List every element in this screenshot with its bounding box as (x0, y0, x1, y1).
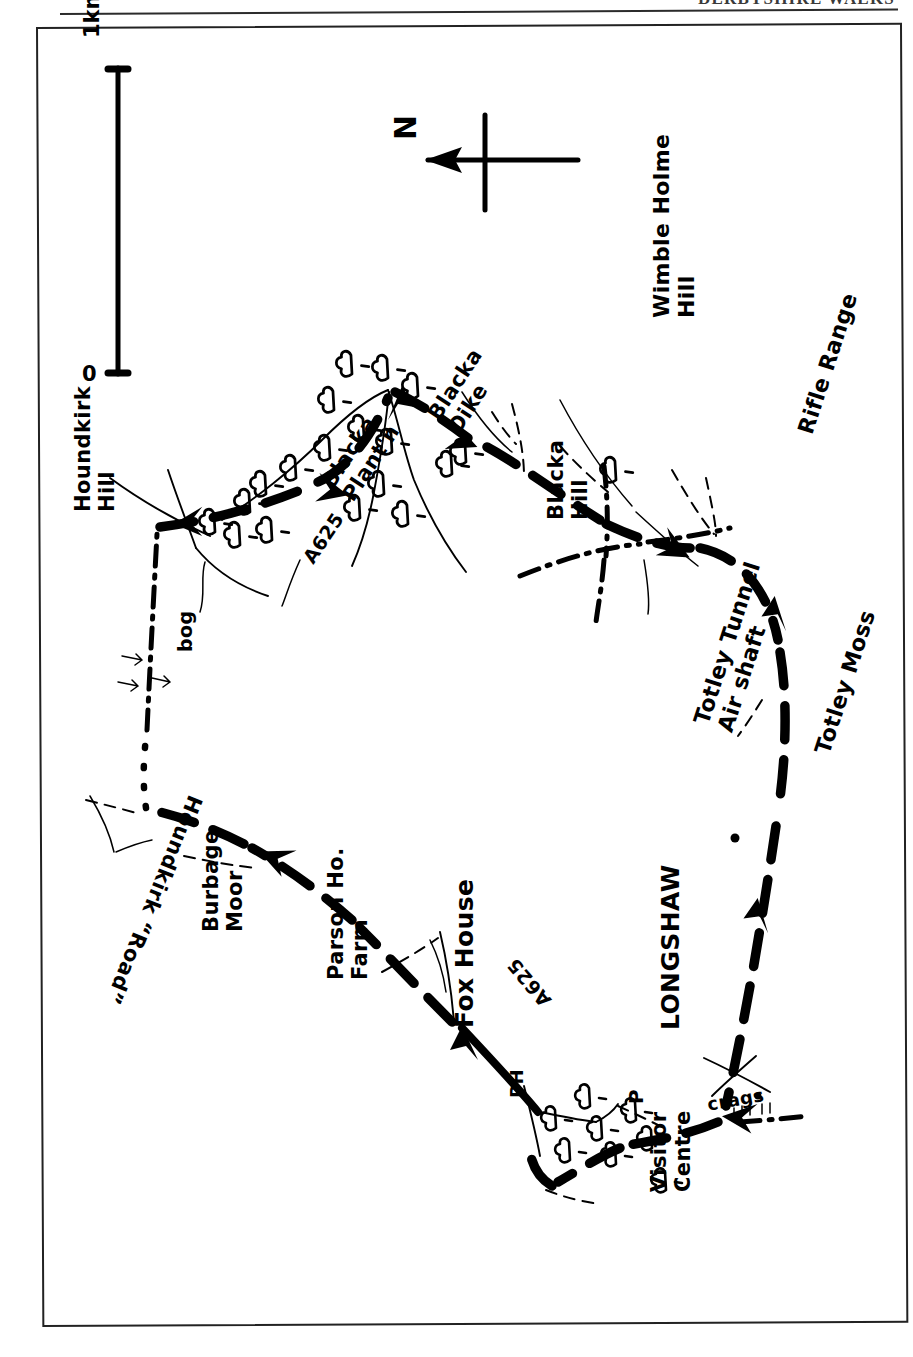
scale-bar-min-label: 0 (82, 362, 97, 386)
map-label-text: P (624, 1089, 648, 1104)
map-label-longshaw: LONGSHAW (658, 864, 684, 1030)
map-label-text: Houndkirk (71, 386, 95, 512)
map-label-blacka-hill: BlackaHill (545, 440, 592, 520)
map-label-text-line2: Moor (223, 870, 247, 932)
map-label-text: PH (506, 1069, 527, 1098)
map-label-fox-house: Fox House (452, 879, 478, 1028)
map-label-wimble-holme-hill: Wimble HolmeHill (650, 134, 699, 318)
north-arrow-graphic (425, 115, 578, 210)
map-label-text: Visitor (647, 1112, 671, 1192)
map-label-burbage-moor: BurbageMoor (200, 829, 247, 932)
map-label-text: Fox House (450, 879, 479, 1028)
map-label-text-line2: Hill (95, 471, 119, 512)
map-label-text: Blacka (544, 440, 568, 520)
map-drawing: .ink { fill:none; stroke:#000; stroke-li… (0, 0, 913, 1357)
map-label-text-line2: Hill (674, 275, 699, 318)
scale-bar-graphic (108, 68, 128, 374)
map-label-visitor-centre: VisitorCentre (648, 1110, 695, 1192)
north-arrow-label: N (388, 115, 423, 140)
map-label-bog: bog (176, 611, 195, 652)
map-label-ph: PH (508, 1069, 526, 1098)
map-label-text-line2: Centre (671, 1110, 695, 1192)
map-label-text-line2: Hill (568, 479, 592, 520)
map-label-text: bog (174, 611, 196, 652)
map-label-houndkirk-hill: HoundkirkHill (72, 386, 119, 512)
scale-bar-max-label: 1km (80, 0, 104, 38)
bog-symbols (118, 654, 170, 691)
air-shaft-symbol (731, 834, 740, 843)
map-label-text: LONGSHAW (656, 864, 685, 1030)
map-label-parson-house-farm: Parson Ho.Farm (325, 847, 372, 980)
map-label-text: Wimble Holme (649, 134, 674, 318)
map-label-text: Burbage (199, 829, 223, 932)
map-label-car-park: P (626, 1089, 646, 1104)
map-label-text: Parson Ho. (324, 847, 348, 980)
map-label-text-line2: Farm (348, 919, 372, 980)
